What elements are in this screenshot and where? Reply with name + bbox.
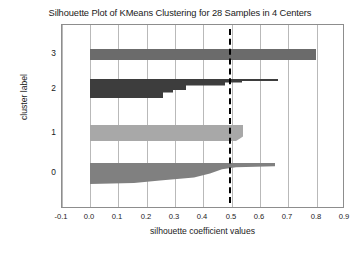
silhouette-plot-figure: Silhouette Plot of KMeans Clustering for… bbox=[0, 0, 360, 259]
chart-title: Silhouette Plot of KMeans Clustering for… bbox=[0, 8, 360, 18]
xtick-label-0: -0.1 bbox=[54, 212, 67, 221]
gridline-x--0.1 bbox=[62, 25, 63, 207]
x-axis-label: silhouette coefficient values bbox=[61, 226, 344, 236]
xtick-label-1: 0.0 bbox=[84, 212, 95, 221]
average-silhouette-threshold-line bbox=[229, 24, 231, 208]
y-axis-label: cluster label bbox=[19, 42, 29, 152]
ytick-label-3: 3 bbox=[44, 48, 56, 58]
xtick-label-7: 0.6 bbox=[254, 212, 265, 221]
silhouette-band-cluster-1 bbox=[90, 125, 243, 141]
xtick-label-6: 0.5 bbox=[226, 212, 237, 221]
plot-area bbox=[61, 24, 344, 208]
silhouette-band-cluster-2 bbox=[90, 79, 278, 98]
ytick-label-2: 2 bbox=[44, 83, 56, 93]
silhouette-band-cluster-0 bbox=[90, 163, 275, 184]
xtick-label-4: 0.3 bbox=[169, 212, 180, 221]
xtick-label-10: 0.9 bbox=[339, 212, 350, 221]
xtick-label-2: 0.1 bbox=[112, 212, 123, 221]
ytick-label-0: 0 bbox=[44, 167, 56, 177]
xtick-label-3: 0.2 bbox=[141, 212, 152, 221]
xtick-label-8: 0.7 bbox=[282, 212, 293, 221]
xtick-label-9: 0.8 bbox=[311, 212, 322, 221]
gridline-x-0.8 bbox=[317, 25, 318, 207]
ytick-label-1: 1 bbox=[44, 127, 56, 137]
xtick-label-5: 0.4 bbox=[197, 212, 208, 221]
silhouette-band-cluster-3 bbox=[90, 49, 316, 60]
